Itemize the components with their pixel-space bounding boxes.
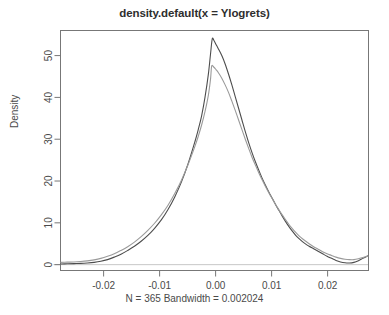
x-axis-ticks: -0.02-0.010.000.010.02 [92, 271, 338, 291]
svg-text:20: 20 [43, 175, 54, 187]
plot-canvas: 01020304050 -0.02-0.010.000.010.02 [0, 0, 389, 315]
svg-text:0: 0 [43, 261, 54, 267]
plot-frame [61, 31, 369, 271]
svg-text:-0.02: -0.02 [92, 280, 115, 291]
svg-text:0.00: 0.00 [206, 280, 226, 291]
svg-text:30: 30 [43, 133, 54, 145]
svg-text:-0.01: -0.01 [148, 280, 171, 291]
density-curves [61, 38, 369, 264]
svg-text:10: 10 [43, 217, 54, 229]
svg-text:0.02: 0.02 [318, 280, 338, 291]
svg-text:50: 50 [43, 50, 54, 62]
x-axis-caption: N = 365 Bandwidth = 0.002024 [0, 293, 389, 304]
density-plot: density.default(x = Ylogrets) Density 01… [0, 0, 389, 315]
y-axis-ticks: 01020304050 [43, 50, 61, 268]
svg-text:0.01: 0.01 [262, 280, 282, 291]
svg-text:40: 40 [43, 91, 54, 103]
